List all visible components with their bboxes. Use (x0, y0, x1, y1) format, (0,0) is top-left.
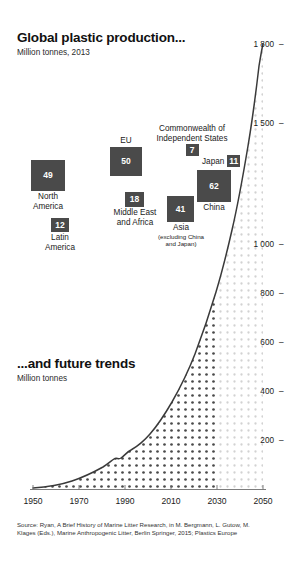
region-china: 62 China (197, 170, 231, 213)
region-sublabel-asia: (excluding China and Japan) (144, 233, 218, 247)
x-tick-2010: 2010 (154, 496, 188, 506)
x-tick-2030: 2030 (200, 496, 234, 506)
region-eu: EU 50 (110, 136, 142, 176)
y-tick-dash-600: – (279, 338, 284, 347)
region-label-asia: Asia (146, 223, 216, 233)
historic-area-fill (30, 280, 220, 492)
region-value-latin-america: 12 (51, 218, 69, 232)
infographic-root: Global plastic production... Million ton… (0, 0, 296, 570)
y-tick-dash-1500: – (279, 119, 284, 128)
region-north-america: 49 North America (31, 160, 65, 211)
y-tick-dash-1800: – (279, 40, 284, 49)
bottom-title-block: ...and future trends Million tonnes (17, 356, 135, 384)
region-value-china: 62 (197, 170, 231, 202)
future-trends-subtitle: Million tonnes (17, 373, 135, 384)
region-label-commonwealth-of-independent-states: Commonwealth of Independent States (153, 124, 231, 143)
region-commonwealth-of-independent-states: Commonwealth of Independent States 7 (153, 124, 231, 156)
x-tick-1970: 1970 (62, 496, 96, 506)
y-tick-1800: 1 800 (240, 40, 274, 49)
x-tick-2050: 2050 (246, 496, 280, 506)
region-value-eu: 50 (110, 147, 142, 176)
plastic-production-chart (0, 0, 296, 570)
y-tick-dash-400: – (279, 387, 284, 396)
region-value-commonwealth-of-independent-states: 7 (186, 144, 199, 156)
page-title: Global plastic production... (17, 30, 185, 45)
region-asia: 41 Asia (excluding China and Japan) (167, 196, 194, 247)
region-value-middle-east-and-africa: 18 (125, 192, 144, 207)
y-tick-dash-200: – (279, 436, 284, 445)
y-tick-dash-1000: – (279, 240, 284, 249)
page-subtitle: Million tonnes, 2013 (17, 47, 185, 58)
region-label-north-america: North America (31, 192, 65, 211)
top-title-block: Global plastic production... Million ton… (17, 30, 185, 58)
y-tick-1500: 1 500 (240, 119, 274, 128)
region-label-latin-america: Latin America (38, 233, 82, 252)
region-japan: Japan 11 (202, 155, 240, 167)
source-note: Source: Ryan, A Brief History of Marine … (17, 521, 265, 537)
region-value-north-america: 49 (31, 160, 65, 191)
y-tick-dash-800: – (279, 289, 284, 298)
y-tick-800: 800 (240, 289, 274, 298)
forecast-area-fill (30, 40, 266, 490)
y-tick-1000: 1 000 (240, 240, 274, 249)
region-label-eu: EU (110, 136, 142, 146)
y-tick-400: 400 (240, 387, 274, 396)
region-latin-america: 12 Latin America (51, 218, 69, 252)
x-tick-1950: 1950 (16, 496, 50, 506)
future-trends-title: ...and future trends (17, 356, 135, 371)
region-label-china: China (197, 203, 231, 213)
region-value-asia: 41 (167, 196, 194, 222)
y-tick-200: 200 (240, 436, 274, 445)
region-value-japan: 11 (227, 155, 240, 167)
region-middle-east-and-africa: 18 Middle East and Africa (125, 192, 144, 227)
y-tick-600: 600 (240, 338, 274, 347)
x-tick-1990: 1990 (108, 496, 142, 506)
region-label-japan: Japan (202, 157, 224, 167)
